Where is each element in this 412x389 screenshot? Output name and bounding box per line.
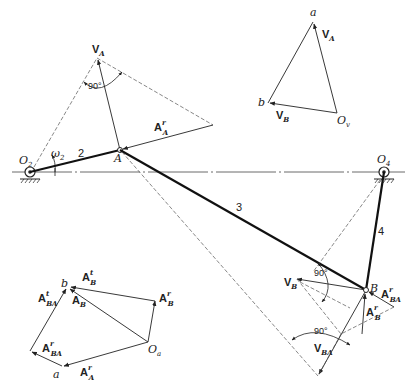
linkage-diagram: O2 ω2 2 VA ArA 90° A 3 O4 4 VB 90° — [0, 0, 412, 389]
label-link-2: 2 — [78, 147, 84, 159]
label-poly-b: b — [258, 96, 265, 109]
label-ara: ArA — [154, 118, 169, 137]
joint-b — [364, 288, 369, 293]
label-acc-arba: ArBA — [42, 339, 63, 358]
label-link-3: 3 — [236, 201, 242, 213]
label-vba: VBA — [314, 342, 333, 357]
label-oa: Oa — [148, 343, 161, 358]
label-omega2: ω2 — [51, 147, 65, 162]
label-acc-atb: AtB — [82, 268, 96, 287]
vector-va — [98, 60, 120, 150]
acc-vector-atb — [71, 287, 155, 301]
label-angle-90-c: 90° — [314, 326, 328, 336]
acc-vector-arb — [148, 301, 155, 342]
label-angle-90-a: 90° — [88, 81, 102, 91]
label-poly-va: VA — [322, 28, 335, 43]
dashed-va-ara — [97, 58, 213, 125]
label-acc-atba: AtBA — [38, 289, 58, 308]
label-o2: O2 — [19, 154, 33, 169]
label-o4: O4 — [377, 153, 391, 168]
label-a: A — [113, 152, 122, 165]
label-vb: VB — [284, 276, 297, 291]
label-acc-b: b — [61, 277, 68, 290]
link-2 — [30, 150, 120, 172]
label-link-4: 4 — [378, 225, 384, 237]
label-angle-90-b: 90° — [314, 268, 328, 278]
label-acc-a: a — [53, 368, 60, 381]
vector-arb — [362, 294, 365, 334]
label-acc-ab: AB — [72, 294, 86, 309]
link-3 — [120, 150, 366, 290]
label-poly-vb: VB — [276, 109, 289, 124]
label-va: VA — [92, 43, 105, 58]
label-acc-arb: ArB — [159, 289, 174, 308]
label-b: B — [369, 282, 378, 295]
dashed-o2-va — [34, 58, 97, 167]
label-arb: ArB — [366, 303, 381, 322]
acc-vector-ab — [70, 289, 148, 342]
label-acc-ara: ArA — [80, 363, 95, 382]
label-poly-a: a — [310, 6, 317, 19]
acc-vector-ara — [64, 342, 148, 366]
label-ov: Ov — [337, 114, 350, 129]
